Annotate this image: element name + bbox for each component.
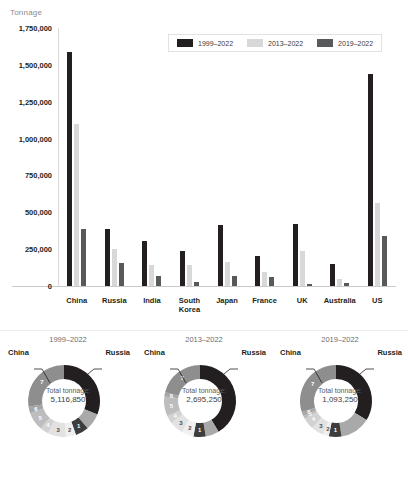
bar[interactable]: [337, 279, 342, 286]
bar[interactable]: [232, 276, 237, 286]
donut-title: 2019–2022: [272, 335, 408, 344]
donut-chart: 1999–2022ChinaRussia1234567Total tonnage…: [0, 335, 136, 455]
legend-label: 2019–2022: [338, 40, 373, 47]
bar[interactable]: [225, 262, 230, 286]
bar-group: [283, 28, 321, 286]
bar[interactable]: [149, 265, 154, 286]
bar[interactable]: [194, 282, 199, 286]
bar[interactable]: [187, 265, 192, 286]
bar-plot-area: 0250,000500,000750,0001,000,0001,250,000…: [58, 28, 396, 286]
legend-item[interactable]: 2013–2022: [247, 39, 303, 47]
donut-label-russia: Russia: [241, 348, 266, 357]
y-tick-label: 250,000: [25, 245, 52, 254]
donut-center-text: Total tonnage:2,695,250: [176, 386, 232, 404]
donut-chart: 2019–2022ChinaRussia1234567Total tonnage…: [272, 335, 408, 455]
bar[interactable]: [344, 283, 349, 286]
donut-svg: 1234567: [292, 357, 388, 453]
bar[interactable]: [375, 203, 380, 286]
bar-group: [359, 28, 397, 286]
x-axis-labels: ChinaRussiaIndiaSouthKoreaJapanFranceUKA…: [58, 296, 396, 326]
bar[interactable]: [67, 52, 72, 286]
bar-group: [133, 28, 171, 286]
donut-label-china: China: [280, 348, 301, 357]
donut-label-china: China: [8, 348, 29, 357]
legend-item[interactable]: 1999–2022: [177, 39, 233, 47]
y-tick-label: 750,000: [25, 171, 52, 180]
x-tick-label: UK: [283, 296, 321, 326]
bar[interactable]: [105, 229, 110, 286]
legend-swatch: [247, 39, 263, 47]
bar[interactable]: [368, 74, 373, 286]
donut-center-text: Total tonnage:5,116,850: [40, 386, 96, 404]
bar[interactable]: [307, 284, 312, 286]
x-tick-label: India: [133, 296, 171, 326]
legend-swatch: [177, 39, 193, 47]
legend-label: 1999–2022: [198, 40, 233, 47]
donut-title: 1999–2022: [0, 335, 136, 344]
donut-total-value: 1,093,250: [312, 395, 368, 404]
bar[interactable]: [142, 241, 147, 286]
donut-total-label-1: Total: [182, 387, 197, 394]
donut-charts: 1999–2022ChinaRussia1234567Total tonnage…: [0, 335, 408, 455]
bar-group: [171, 28, 209, 286]
donut-label-china: China: [144, 348, 165, 357]
bar[interactable]: [156, 276, 161, 286]
bar[interactable]: [218, 225, 223, 286]
bar-group: [96, 28, 134, 286]
bar-group: [321, 28, 359, 286]
x-tick-label: Russia: [96, 296, 134, 326]
x-tick-label: France: [246, 296, 284, 326]
bar[interactable]: [269, 277, 274, 286]
legend-swatch: [317, 39, 333, 47]
donut-total-value: 2,695,250: [176, 395, 232, 404]
donut-svg: 1234567: [20, 357, 116, 453]
bar[interactable]: [330, 264, 335, 286]
bar[interactable]: [74, 124, 79, 286]
x-tick-label: Australia: [321, 296, 359, 326]
bar[interactable]: [81, 229, 86, 286]
y-tick-label: 1,500,000: [19, 60, 52, 69]
x-tick-label: China: [58, 296, 96, 326]
donut-svg: 1234567: [156, 357, 252, 453]
x-tick-label: SouthKorea: [171, 296, 209, 326]
bar-group: [246, 28, 284, 286]
donut-title: 2013–2022: [136, 335, 272, 344]
donut-total-label-2: tonnage:: [197, 387, 226, 394]
donut-panel: 1999–2022ChinaRussia1234567Total tonnage…: [0, 330, 408, 497]
y-tick-label: 1,250,000: [19, 97, 52, 106]
bar[interactable]: [119, 263, 124, 286]
bar[interactable]: [180, 251, 185, 286]
bar[interactable]: [112, 249, 117, 286]
legend-label: 2013–2022: [268, 40, 303, 47]
bar-groups: [58, 28, 396, 286]
y-tick-label: 1,000,000: [19, 134, 52, 143]
donut-chart: 2013–2022ChinaRussia1234567Total tonnage…: [136, 335, 272, 455]
x-tick-label: Japan: [208, 296, 246, 326]
bar[interactable]: [293, 224, 298, 286]
bar-group: [58, 28, 96, 286]
donut-total-label-2: tonnage:: [333, 387, 362, 394]
bar-chart-panel: Tonnage 0250,000500,000750,0001,000,0001…: [0, 0, 408, 330]
x-axis-line: [12, 286, 396, 287]
bar[interactable]: [300, 251, 305, 286]
bar[interactable]: [262, 272, 267, 286]
bar-group: [208, 28, 246, 286]
y-axis-title: Tonnage: [10, 8, 42, 17]
donut-total-label-1: Total: [318, 387, 333, 394]
donut-total-value: 5,116,850: [40, 395, 96, 404]
legend-item[interactable]: 2019–2022: [317, 39, 373, 47]
x-tick-label: US: [359, 296, 397, 326]
donut-center-text: Total tonnage:1,093,250: [312, 386, 368, 404]
y-tick-label: 500,000: [25, 208, 52, 217]
y-tick-label: 0: [48, 282, 52, 291]
donut-label-russia: Russia: [377, 348, 402, 357]
donut-label-russia: Russia: [105, 348, 130, 357]
donut-total-label-2: tonnage:: [61, 387, 90, 394]
bar[interactable]: [255, 256, 260, 286]
bar-chart-legend: 1999–20222013–20222019–2022: [168, 34, 382, 52]
donut-total-label-1: Total: [46, 387, 61, 394]
y-tick-label: 1,750,000: [19, 24, 52, 33]
bar[interactable]: [382, 236, 387, 286]
